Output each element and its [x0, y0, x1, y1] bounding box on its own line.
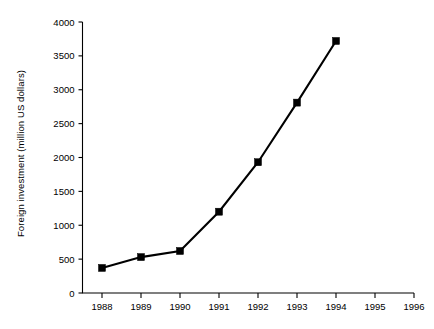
y-tick-label: 500 — [59, 254, 75, 265]
data-point-marker: 1988: 370 — [99, 264, 106, 271]
y-tick-label: 2500 — [53, 118, 74, 129]
x-tick-label: 1989 — [130, 301, 151, 312]
y-tick-label: 3000 — [53, 84, 74, 95]
y-tick-label: 2000 — [53, 152, 74, 163]
plot-area: 0500100015002000250030003500400019881989… — [0, 0, 434, 329]
data-point-marker: 1989: 530 — [138, 254, 145, 261]
axis-lines — [83, 22, 415, 293]
x-tick-label: 1993 — [286, 301, 307, 312]
data-point-marker: 1990: 620 — [177, 247, 184, 254]
x-tick-label: 1995 — [364, 301, 385, 312]
y-tick-label: 1500 — [53, 186, 74, 197]
data-point-marker: 1991: 1200 — [216, 208, 223, 215]
x-tick-label: 1991 — [208, 301, 229, 312]
data-point-marker: 1994: 3720 — [333, 37, 340, 44]
data-line — [102, 41, 336, 268]
x-tick-label: 1990 — [169, 301, 190, 312]
y-tick-label: 0 — [69, 288, 74, 299]
data-point-marker: 1992: 1930 — [255, 159, 262, 166]
x-tick-label: 1994 — [325, 301, 346, 312]
x-tick-label: 1996 — [403, 301, 424, 312]
line-chart: Foreign investment (million US dollars) … — [0, 0, 434, 329]
data-point-marker: 1993: 2810 — [294, 99, 301, 106]
y-tick-label: 1000 — [53, 220, 74, 231]
x-tick-label: 1988 — [91, 301, 112, 312]
x-tick-label: 1992 — [247, 301, 268, 312]
y-tick-label: 4000 — [53, 17, 74, 28]
y-tick-label: 3500 — [53, 50, 74, 61]
